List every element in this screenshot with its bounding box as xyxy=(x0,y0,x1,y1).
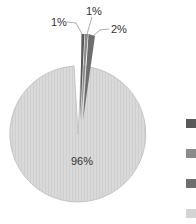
legend-swatch-1 xyxy=(186,119,196,128)
data-label-1b: 1% xyxy=(86,5,102,17)
legend-swatch-3 xyxy=(186,179,196,188)
data-label-96: 96% xyxy=(71,155,93,167)
pie-slice-96 xyxy=(10,66,146,202)
leader-line xyxy=(87,17,92,34)
data-label-1a: 1% xyxy=(51,16,67,28)
legend xyxy=(186,119,196,224)
data-label-2: 2% xyxy=(111,23,127,35)
leader-line xyxy=(93,29,109,36)
legend-swatch-4 xyxy=(186,209,196,218)
leader-line xyxy=(67,22,82,34)
legend-swatch-2 xyxy=(186,149,196,158)
pie-chart xyxy=(0,0,196,224)
